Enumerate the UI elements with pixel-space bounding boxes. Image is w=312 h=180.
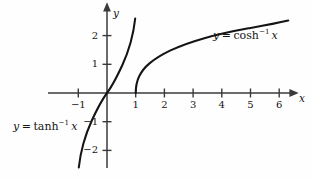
y-tick-label--1: −1: [74, 117, 98, 127]
tanh-label-function: tanh: [33, 120, 58, 133]
curve-label-tanh-inverse: y=tanh−1x: [13, 121, 77, 132]
tanh-label-argument: x: [69, 120, 77, 133]
x-tick-label-3: 3: [181, 100, 205, 110]
cosh-label-function: cosh: [233, 29, 259, 42]
curve-label-cosh-inverse: y=cosh−1x: [213, 30, 278, 41]
cosh-label-argument: x: [270, 29, 278, 42]
x-tick-label-4: 4: [210, 100, 234, 110]
tanh-label-exponent: −1: [59, 118, 70, 127]
x-tick-label-1: 1: [124, 100, 148, 110]
tanh-label-equals: =: [19, 120, 33, 133]
x-axis-name: x: [299, 93, 305, 104]
x-tick-label-6: 6: [267, 100, 291, 110]
y-tick-label-2: 2: [78, 31, 98, 41]
y-tick-label--2: −2: [74, 145, 98, 155]
cosh-label-equals: =: [219, 29, 233, 42]
y-axis-name: y: [113, 8, 119, 19]
y-tick-label-1: 1: [78, 59, 98, 69]
figure-canvas: −1 1 2 3 4 5 6 2 1 −1 −2 x y y=cosh−1x y…: [0, 0, 312, 180]
x-tick-label-5: 5: [239, 100, 263, 110]
x-tick-label-2: 2: [152, 100, 176, 110]
x-tick-label--1: −1: [66, 100, 90, 110]
cosh-label-exponent: −1: [259, 27, 270, 36]
